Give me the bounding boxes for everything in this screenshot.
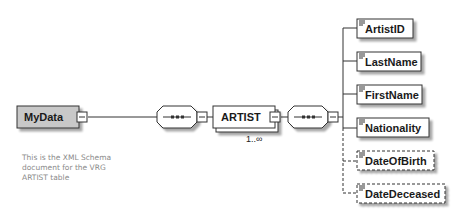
collapse-toggle-icon[interactable] — [270, 112, 280, 122]
annotation-text: This is the XML Schema document for the … — [21, 153, 111, 182]
svg-text:ARTIST table: ARTIST table — [22, 173, 70, 182]
svg-text:DateDeceased: DateDeceased — [365, 188, 440, 200]
sequence-icon — [171, 116, 184, 119]
child-element-artistid[interactable]: ArtistID — [357, 19, 413, 38]
svg-text:FirstName: FirstName — [365, 89, 419, 101]
svg-text:DateOfBirth: DateOfBirth — [365, 155, 427, 167]
svg-text:This is the XML Schema: This is the XML Schema — [21, 153, 111, 162]
svg-text:document for the VRG: document for the VRG — [22, 163, 106, 172]
child-element-firstname[interactable]: FirstName — [357, 85, 422, 104]
child-element-dateofbirth-optional[interactable]: DateOfBirth — [357, 151, 434, 170]
cardinality-label: 1..∞ — [246, 134, 262, 144]
svg-text:Nationality: Nationality — [365, 122, 422, 134]
svg-text:LastName: LastName — [365, 56, 418, 68]
element-artist[interactable]: ARTIST 1..∞ — [213, 106, 280, 144]
xml-schema-diagram: MyData This is the XML Schema document f… — [0, 0, 465, 215]
root-element-mydata[interactable]: MyData — [17, 106, 87, 128]
element-artist-label: ARTIST — [221, 111, 261, 123]
collapse-toggle-icon[interactable] — [77, 112, 87, 122]
child-element-nationality[interactable]: Nationality — [357, 118, 429, 137]
sequence-compositor-2[interactable] — [288, 106, 338, 128]
sequence-compositor-1[interactable] — [157, 106, 207, 128]
collapse-toggle-icon[interactable] — [197, 112, 207, 122]
child-element-datedeceased-optional[interactable]: DateDeceased — [357, 184, 445, 203]
collapse-toggle-icon[interactable] — [328, 112, 338, 122]
sequence-icon — [302, 116, 315, 119]
child-element-lastname[interactable]: LastName — [357, 52, 421, 71]
root-element-label: MyData — [24, 111, 64, 123]
svg-text:ArtistID: ArtistID — [365, 23, 405, 35]
